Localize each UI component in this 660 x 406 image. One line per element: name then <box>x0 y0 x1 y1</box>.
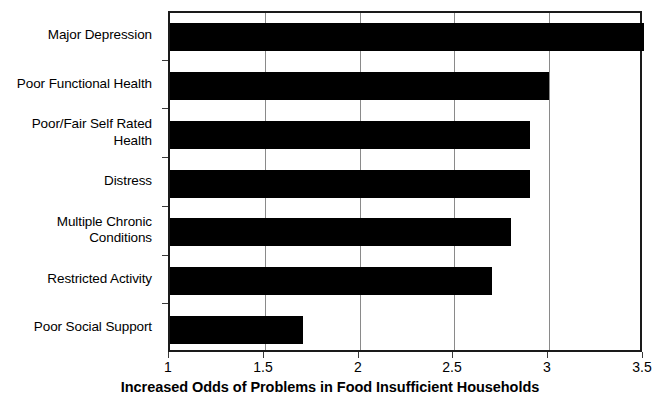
category-label: Poor Social Support <box>0 319 152 336</box>
bar <box>170 316 303 344</box>
y-axis-category-labels: Major DepressionPoor Functional HealthPo… <box>0 11 160 352</box>
category-label: Poor/Fair Self RatedHealth <box>0 116 152 149</box>
x-axis-tick-label: 3.5 <box>632 358 651 376</box>
bar <box>170 218 511 246</box>
bar <box>170 121 530 149</box>
category-label-line: Distress <box>0 173 152 190</box>
category-label-line: Major Depression <box>0 27 152 44</box>
category-label-line: Multiple Chronic <box>0 214 152 231</box>
x-axis-title: Increased Odds of Problems in Food Insuf… <box>0 379 660 395</box>
category-label-line: Poor Functional Health <box>0 76 152 93</box>
plot-area <box>168 11 642 352</box>
category-label: Multiple ChronicConditions <box>0 214 152 247</box>
category-label: Distress <box>0 173 152 190</box>
x-axis-tick-label: 1 <box>164 358 172 376</box>
x-axis-tick-label: 2.5 <box>442 358 461 376</box>
bar <box>170 23 644 51</box>
bar <box>170 170 530 198</box>
category-label: Major Depression <box>0 27 152 44</box>
category-label: Restricted Activity <box>0 271 152 288</box>
x-axis-tick-label: 2 <box>354 358 362 376</box>
bar <box>170 72 549 100</box>
bar-series <box>170 13 640 350</box>
x-axis-tick-label: 3 <box>543 358 551 376</box>
x-axis-tick-labels: 11.522.533.5 <box>168 358 642 378</box>
category-label-line: Restricted Activity <box>0 271 152 288</box>
y-axis-tick-marks <box>161 11 168 352</box>
category-label-line: Poor/Fair Self Rated <box>0 116 152 133</box>
x-axis-tick-label: 1.5 <box>253 358 272 376</box>
bar-chart-figure: Major DepressionPoor Functional HealthPo… <box>0 0 660 406</box>
bar <box>170 267 492 295</box>
category-label-line: Health <box>0 133 152 150</box>
category-label: Poor Functional Health <box>0 76 152 93</box>
category-label-line: Conditions <box>0 230 152 247</box>
category-label-line: Poor Social Support <box>0 319 152 336</box>
